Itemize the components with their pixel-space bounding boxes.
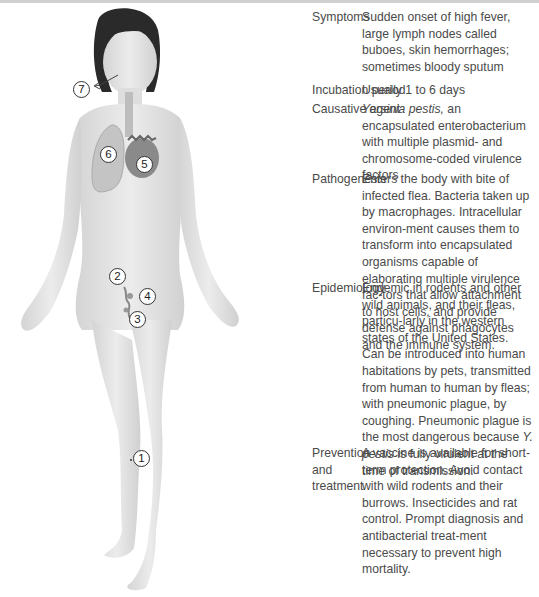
organism-name: Yersinia pestis, xyxy=(362,102,444,116)
marker-1: 1 xyxy=(133,450,150,467)
body-illustration: 7 6 5 2 4 3 1 xyxy=(0,0,300,597)
marker-7: 7 xyxy=(73,81,90,98)
marker-4: 4 xyxy=(139,288,156,305)
marker-2: 2 xyxy=(109,268,126,285)
row-value: A vaccine is available for short-term pr… xyxy=(362,445,534,578)
marker-5: 5 xyxy=(136,156,153,173)
marker-6: 6 xyxy=(100,146,117,163)
row-value-text: Endemic in rodents and other wild animal… xyxy=(362,281,531,444)
row-value: Sudden onset of high fever, large lymph … xyxy=(362,9,534,75)
row-label: Prevention and treatment xyxy=(312,445,362,495)
marker-3: 3 xyxy=(129,311,146,328)
row-value: Usually 1 to 6 days xyxy=(362,82,534,99)
